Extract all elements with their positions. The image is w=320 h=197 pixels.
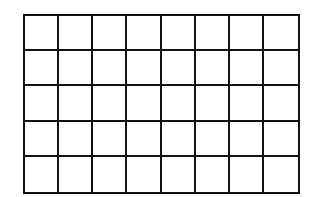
grid-cell [264,157,298,192]
grid-cell [230,16,264,51]
grid-cell [230,122,264,157]
grid-cell [196,16,230,51]
grid-cell [127,157,161,192]
grid-cell [59,16,93,51]
grid-cell [162,86,196,121]
grid-cell [230,157,264,192]
grid-cell [196,157,230,192]
grid-cell [264,122,298,157]
empty-grid [23,14,300,194]
grid-cell [59,86,93,121]
grid-cell [162,16,196,51]
grid-cell [93,86,127,121]
grid-cell [25,51,59,86]
grid-cell [162,157,196,192]
grid-cell [59,51,93,86]
grid-cell [162,51,196,86]
grid-cell [127,51,161,86]
grid-cell [127,122,161,157]
grid-cell [25,86,59,121]
grid-cell [93,51,127,86]
grid-cell [127,16,161,51]
grid-cell [196,51,230,86]
grid-cell [93,16,127,51]
grid-cell [127,86,161,121]
grid-cell [196,86,230,121]
grid-cell [264,16,298,51]
grid-cell [59,157,93,192]
grid-cell [162,122,196,157]
grid-cell [25,16,59,51]
grid-cell [59,122,93,157]
grid-cell [196,122,230,157]
grid-cell [264,86,298,121]
grid-cell [230,86,264,121]
grid-cell [25,122,59,157]
grid-cell [93,157,127,192]
grid-cell [230,51,264,86]
grid-cell [25,157,59,192]
grid-cell [264,51,298,86]
grid-cell [93,122,127,157]
